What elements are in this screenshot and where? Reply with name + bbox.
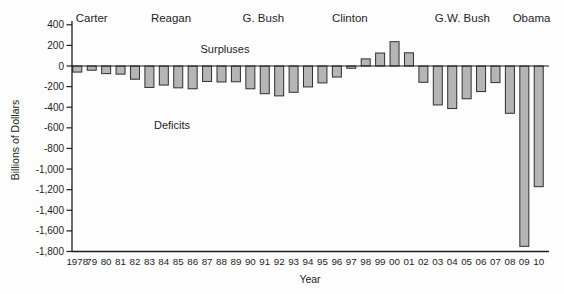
bar-2000 bbox=[390, 42, 399, 66]
y-tick-label: -1,400 bbox=[36, 205, 65, 216]
x-tick-label: 87 bbox=[202, 256, 213, 267]
y-tick-label: -800 bbox=[44, 143, 64, 154]
bar-1979 bbox=[87, 66, 96, 70]
bar-1981 bbox=[116, 66, 125, 74]
era-label-g-bush: G. Bush bbox=[243, 12, 285, 24]
y-tick-label: -400 bbox=[44, 102, 64, 113]
x-tick-label: 01 bbox=[404, 256, 415, 267]
x-axis-title: Year bbox=[299, 273, 320, 285]
x-tick-label: 89 bbox=[230, 256, 241, 267]
x-tick-label: 07 bbox=[490, 256, 501, 267]
x-tick-label: 10 bbox=[533, 256, 544, 267]
bar-1989 bbox=[231, 66, 240, 82]
x-tick-label: 79 bbox=[86, 256, 97, 267]
bar-1991 bbox=[260, 66, 269, 94]
x-tick-label: 94 bbox=[303, 256, 314, 267]
x-tick-label: 92 bbox=[274, 256, 285, 267]
x-tick-label: 82 bbox=[130, 256, 141, 267]
bar-2003 bbox=[433, 66, 442, 105]
x-tick-label: 08 bbox=[504, 256, 515, 267]
bar-2009 bbox=[520, 66, 529, 246]
bar-2007 bbox=[491, 66, 500, 83]
chart-canvas: 4002000-200-400-600-800-1,000-1,200-1,40… bbox=[0, 0, 564, 294]
x-tick-label: 99 bbox=[375, 256, 386, 267]
x-tick-label: 84 bbox=[158, 256, 169, 267]
x-tick-label: 96 bbox=[331, 256, 342, 267]
y-tick-label: -1,600 bbox=[36, 225, 65, 236]
era-label-gw-bush: G.W. Bush bbox=[435, 12, 490, 24]
x-tick-label: 00 bbox=[389, 256, 400, 267]
x-tick-label: 06 bbox=[476, 256, 487, 267]
bar-1978 bbox=[73, 66, 82, 72]
bar-1996 bbox=[332, 66, 341, 77]
bar-1990 bbox=[246, 66, 255, 89]
x-tick-label: 85 bbox=[173, 256, 184, 267]
y-tick-label: 200 bbox=[47, 40, 64, 51]
x-tick-label: 91 bbox=[259, 256, 270, 267]
y-tick-label: -200 bbox=[44, 81, 64, 92]
x-tick-label: 03 bbox=[432, 256, 443, 267]
era-label-reagan: Reagan bbox=[151, 12, 191, 24]
bar-1992 bbox=[275, 66, 284, 96]
bar-1985 bbox=[174, 66, 183, 88]
federal-budget-deficit-surplus-figure: 4002000-200-400-600-800-1,000-1,200-1,40… bbox=[0, 0, 564, 294]
bar-1993 bbox=[289, 66, 298, 92]
bar-1998 bbox=[361, 59, 370, 66]
x-tick-label: 80 bbox=[101, 256, 112, 267]
x-tick-label: 83 bbox=[144, 256, 155, 267]
y-tick-label: -1,800 bbox=[36, 246, 65, 257]
x-tick-label: 86 bbox=[187, 256, 198, 267]
bar-2005 bbox=[462, 66, 471, 99]
x-tick-label: 05 bbox=[461, 256, 472, 267]
bar-1986 bbox=[188, 66, 197, 89]
x-tick-label: 81 bbox=[115, 256, 126, 267]
bar-1987 bbox=[203, 66, 212, 81]
bar-1984 bbox=[159, 66, 168, 85]
bar-2010 bbox=[534, 66, 543, 187]
annotation-deficits: Deficits bbox=[154, 119, 191, 131]
bar-2008 bbox=[505, 66, 514, 113]
annotation-surpluses: Surpluses bbox=[201, 43, 250, 55]
bar-1983 bbox=[145, 66, 154, 87]
x-tick-label: 97 bbox=[346, 256, 357, 267]
x-tick-label: 90 bbox=[245, 256, 256, 267]
y-tick-label: -1,200 bbox=[36, 184, 65, 195]
era-label-clinton: Clinton bbox=[332, 12, 368, 24]
x-tick-label: 95 bbox=[317, 256, 328, 267]
bar-1999 bbox=[376, 53, 385, 66]
bar-1988 bbox=[217, 66, 226, 82]
x-tick-label: 04 bbox=[447, 256, 458, 267]
bar-1994 bbox=[304, 66, 313, 87]
y-axis-title: Billions of Dollars bbox=[9, 100, 21, 181]
era-label-obama: Obama bbox=[513, 12, 551, 24]
y-tick-label: 0 bbox=[58, 61, 64, 72]
x-tick-label: 98 bbox=[360, 256, 371, 267]
bar-2002 bbox=[419, 66, 428, 82]
y-tick-label: -1,000 bbox=[36, 164, 65, 175]
bar-2006 bbox=[477, 66, 486, 92]
x-tick-label: 09 bbox=[519, 256, 530, 267]
x-tick-label: 93 bbox=[288, 256, 299, 267]
bar-1980 bbox=[102, 66, 111, 74]
x-tick-label: 02 bbox=[418, 256, 429, 267]
bar-2004 bbox=[448, 66, 457, 109]
x-tick-label: 88 bbox=[216, 256, 227, 267]
y-tick-label: 400 bbox=[47, 19, 64, 30]
y-tick-label: -600 bbox=[44, 122, 64, 133]
bar-2001 bbox=[404, 53, 413, 66]
era-label-carter: Carter bbox=[76, 12, 108, 24]
bar-1982 bbox=[130, 66, 139, 79]
bar-1995 bbox=[318, 66, 327, 83]
